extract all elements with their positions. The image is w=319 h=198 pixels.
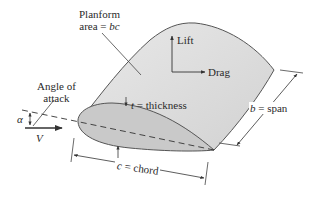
planform-label-line2: area = bc [79, 20, 120, 32]
span-extension-top [280, 70, 303, 73]
chord-extension-right [205, 162, 208, 185]
velocity-symbol: V [36, 132, 43, 144]
drag-label: Drag [208, 66, 230, 78]
thickness-label: t = thickness [131, 99, 187, 111]
lift-label: Lift [177, 34, 194, 46]
span-extension-bottom [219, 143, 240, 146]
planform-label-line1: Planform [79, 8, 120, 20]
angle-label-line2: attack [37, 92, 76, 104]
chord-dimension-right [160, 170, 204, 178]
chord-dimension-left [74, 155, 115, 162]
wing-diagram: Planform area = bc Angle of attack α V L… [0, 0, 319, 198]
planform-label: Planform area = bc [79, 8, 120, 32]
chord-extension-left [71, 138, 74, 162]
angle-of-attack-label: Angle of attack [37, 80, 76, 104]
span-label: b = span [249, 102, 288, 114]
angle-label-line1: Angle of [37, 80, 76, 92]
alpha-symbol: α [17, 113, 23, 125]
